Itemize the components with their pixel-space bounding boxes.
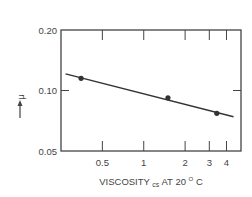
data-point — [165, 95, 170, 100]
chart: 0.512340.050.100.20 μ VISCOSITY cs AT 20… — [0, 0, 252, 197]
plot-frame — [61, 30, 241, 151]
x-tick-label: 4 — [224, 157, 229, 168]
y-tick-label: 0.10 — [39, 85, 58, 96]
x-tick-label: 3 — [207, 157, 212, 168]
y-tick-label: 0.20 — [39, 25, 58, 36]
y-tick-label: 0.05 — [39, 146, 58, 157]
x-tick-label: 1 — [141, 157, 146, 168]
x-tick-label: 0.5 — [96, 157, 109, 168]
y-axis-label: μ — [15, 94, 26, 99]
plot-area: 0.512340.050.100.20 — [39, 25, 242, 169]
data-point — [214, 111, 219, 116]
x-axis-label: VISCOSITY cs AT 20 O C — [99, 172, 203, 189]
y-axis-arrow-icon — [18, 100, 23, 118]
x-tick-label: 2 — [182, 157, 187, 168]
data-point — [78, 76, 83, 81]
fit-line — [66, 74, 234, 117]
